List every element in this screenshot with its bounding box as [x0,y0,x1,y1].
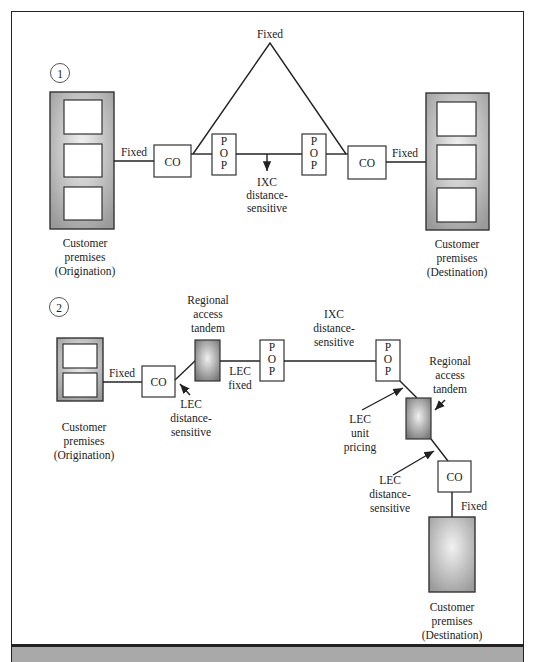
link-label: Fixed [392,147,418,159]
triangle-fixed-label: Fixed [257,28,283,40]
lec-label: distance- [369,488,411,500]
tandem-label: tandem [433,383,467,395]
scenario-2: 2 Customer premises (Origination) Fixed … [50,294,488,642]
lec-label: LEC [379,474,401,486]
pop-label: P [269,341,275,353]
ixc-label: sensitive [314,336,354,348]
ixc-label: distance- [246,189,288,201]
premises-label: premises [437,252,478,265]
regional-access-tandem-right [406,398,431,439]
pop-label: P [385,341,391,353]
pop-label: P [221,159,227,171]
pop-label: O [220,147,228,159]
premises-label: (Origination) [55,265,116,278]
ixc-label: IXC [324,308,344,320]
pop-label: P [269,365,275,377]
tandem-label: Regional [429,355,471,368]
customer-premises-destination [429,517,475,592]
customer-premises-origination [50,92,114,229]
lec-label: LEC [349,413,371,425]
premises-label: Customer [435,238,480,250]
tandem-label: access [435,369,465,381]
premises-label: (Destination) [422,629,483,642]
lec-label: distance- [170,412,212,424]
pop-label: O [310,147,318,159]
premises-label: premises [65,251,106,264]
lec-distance-link-right [431,439,448,461]
lec-label: LEC [180,398,202,410]
lec-label: pricing [344,441,377,454]
pop-label: P [311,135,317,147]
tandem-label: Regional [187,294,229,307]
lec-label: LEC [229,365,251,377]
scenario-number: 2 [56,302,62,314]
premises-label: (Origination) [54,449,115,462]
premises-label: Customer [63,237,108,249]
pop-label: P [385,365,391,377]
ixc-label: IXC [257,176,277,188]
pop-label: P [221,135,227,147]
customer-premises-destination [426,93,489,230]
co-label: CO [165,156,181,168]
premises-label: premises [432,615,473,628]
co-label: CO [151,376,167,388]
scenario-number: 1 [57,68,63,80]
lec-label: sensitive [370,502,410,514]
premises-label: premises [64,435,105,448]
tandem-label: access [193,308,223,320]
lec-label: sensitive [171,426,211,438]
premises-label: Customer [430,601,475,613]
pop-label: O [268,353,276,365]
pop-label: P [311,159,317,171]
premises-label: Customer [62,421,107,433]
ixc-label: distance- [313,322,355,334]
lec-label: fixed [228,379,252,391]
co-label: CO [447,471,463,483]
customer-premises-origination [57,338,103,401]
lec-distance-link [175,360,196,380]
regional-access-tandem-left [195,340,220,381]
tandem-label: tandem [191,322,225,334]
link-label: Fixed [121,146,147,158]
lec-label: unit [351,427,370,439]
ixc-label: sensitive [247,202,287,214]
premises-label: (Destination) [427,266,488,279]
link-label: Fixed [461,500,487,512]
network-diagram: 1 Fixed Customer premises (Origination) … [0,0,537,662]
lec-unit-link [400,381,417,398]
co-label: CO [359,157,375,169]
pop-label: O [384,353,392,365]
scenario-1: 1 Fixed Customer premises (Origination) … [50,28,489,279]
link-label: Fixed [109,367,135,379]
